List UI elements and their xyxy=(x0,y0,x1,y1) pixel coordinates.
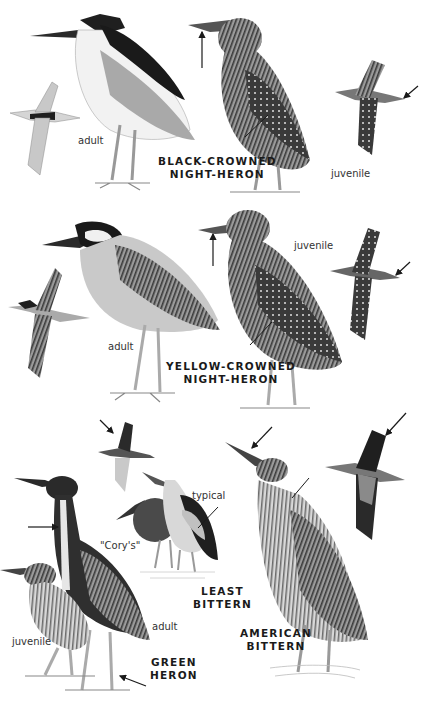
arrow-am-neck xyxy=(292,478,309,498)
species-name-black-crowned-night-heron: BLACK-CROWNED NIGHT-HERON xyxy=(158,155,277,181)
yellow-crowned-adult-flight xyxy=(8,268,90,378)
black-crowned-juvenile-flight xyxy=(335,60,405,155)
label-bc-adult: adult xyxy=(78,135,104,146)
arrow-am-flight-wing xyxy=(386,413,406,435)
label-green-adult: adult xyxy=(152,621,178,632)
species-name-line2: NIGHT-HERON xyxy=(166,373,296,386)
label-least-corys: "Cory's" xyxy=(100,540,140,551)
species-name-line2: NIGHT-HERON xyxy=(158,168,277,181)
label-yc-juvenile: juvenile xyxy=(294,240,333,251)
species-name-line1: GREEN xyxy=(150,656,198,669)
species-name-line1: AMERICAN xyxy=(240,627,312,640)
arrow-yc-juv-flight-feet xyxy=(396,262,410,275)
species-name-line1: YELLOW-CROWNED xyxy=(166,360,296,373)
species-name-american-bittern: AMERICAN BITTERN xyxy=(240,627,312,653)
least-bittern-flight xyxy=(98,422,155,492)
arrow-green-legs xyxy=(120,676,146,686)
arrow-bc-juv-flight-feet xyxy=(404,86,418,98)
arrow-least-flight-wing xyxy=(100,420,113,433)
label-bc-juvenile: juvenile xyxy=(331,168,370,179)
species-name-green-heron: GREEN HERON xyxy=(150,656,198,682)
label-yc-adult: adult xyxy=(108,341,134,352)
field-guide-plate: BLACK-CROWNED NIGHT-HERON YELLOW-CROWNED… xyxy=(0,0,421,707)
species-name-line2: BITTERN xyxy=(193,598,252,611)
black-crowned-adult-flight xyxy=(10,82,80,175)
species-name-line1: LEAST xyxy=(193,585,252,598)
species-name-line1: BLACK-CROWNED xyxy=(158,155,277,168)
yellow-crowned-juvenile-flight xyxy=(330,228,400,340)
american-bittern-flight xyxy=(325,430,405,540)
arrow-am-bill xyxy=(252,427,272,448)
species-name-line2: BITTERN xyxy=(240,640,312,653)
species-name-least-bittern: LEAST BITTERN xyxy=(193,585,252,611)
label-least-typical: typical xyxy=(192,490,225,501)
label-green-juvenile: juvenile xyxy=(12,636,51,647)
species-name-yellow-crowned-night-heron: YELLOW-CROWNED NIGHT-HERON xyxy=(166,360,296,386)
species-name-line2: HERON xyxy=(150,669,198,682)
